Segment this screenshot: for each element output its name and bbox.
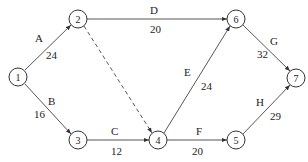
node-2: 2 [69, 10, 87, 28]
svg-text:5: 5 [234, 135, 239, 146]
svg-text:7: 7 [294, 73, 299, 84]
duration-B: 16 [34, 108, 46, 120]
edge-E [164, 26, 230, 133]
svg-text:6: 6 [234, 14, 239, 25]
duration-A: 24 [46, 49, 58, 61]
network-diagram: A 24 B 16 C 12 D 20 E 24 F 20 G 32 H 29 … [0, 0, 308, 162]
svg-text:1: 1 [16, 72, 21, 83]
label-A: A [35, 32, 43, 44]
duration-G: 32 [257, 48, 268, 60]
label-C: C [111, 125, 118, 137]
duration-E: 24 [201, 80, 213, 92]
label-G: G [270, 35, 278, 47]
label-F: F [196, 125, 202, 137]
duration-D: 20 [150, 23, 162, 35]
node-1: 1 [9, 68, 27, 86]
duration-F: 20 [192, 145, 204, 157]
node-4: 4 [149, 131, 167, 149]
edge-H [243, 85, 290, 134]
svg-text:3: 3 [76, 135, 81, 146]
node-3: 3 [69, 131, 87, 149]
edge-A [25, 25, 71, 70]
label-B: B [48, 95, 55, 107]
node-7: 7 [287, 69, 305, 87]
svg-text:2: 2 [76, 14, 81, 25]
svg-text:4: 4 [156, 135, 161, 146]
duration-C: 12 [111, 145, 122, 157]
label-D: D [150, 4, 158, 16]
duration-H: 29 [270, 110, 282, 122]
node-6: 6 [227, 10, 245, 28]
edge-B [25, 84, 71, 134]
node-5: 5 [227, 131, 245, 149]
label-H: H [256, 96, 264, 108]
label-E: E [184, 66, 191, 78]
edge-dummy-2-4 [84, 26, 152, 133]
